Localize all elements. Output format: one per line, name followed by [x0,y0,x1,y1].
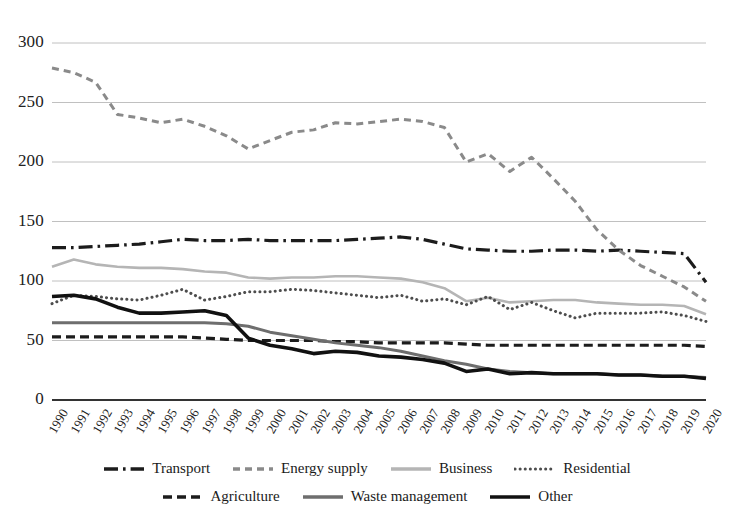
legend-label: Energy supply [281,460,368,477]
legend-row-primary: TransportEnergy supplyBusinessResidentia… [0,460,734,477]
y-tick-100: 100 [0,270,44,290]
series-line-agriculture [52,337,706,347]
legend-item-agriculture[interactable]: Agriculture [162,488,280,505]
legend-item-transport[interactable]: Transport [103,460,210,477]
legend-item-residential[interactable]: Residential [514,460,631,477]
legend-line-swatch [514,463,556,475]
y-tick-200: 200 [0,151,44,171]
legend-line-swatch [232,463,274,475]
y-tick-250: 250 [0,92,44,112]
legend-label: Residential [563,460,631,477]
series-line-waste-management [52,323,706,378]
y-tick-150: 150 [0,211,44,231]
legend-item-other[interactable]: Other [489,488,572,505]
legend-label: Transport [152,460,210,477]
legend-line-swatch [103,463,145,475]
series-line-residential [52,289,706,321]
legend-label: Waste management [351,488,468,505]
emissions-line-chart: 050100150200250300 199019911992199319941… [0,0,734,531]
legend-line-swatch [162,491,204,503]
legend-item-waste-management[interactable]: Waste management [302,488,468,505]
legend-label: Agriculture [211,488,280,505]
legend-line-swatch [302,491,344,503]
legend-item-business[interactable]: Business [390,460,492,477]
legend-label: Other [538,488,572,505]
legend-row-secondary: AgricultureWaste managementOther [0,488,734,505]
y-tick-300: 300 [0,32,44,52]
series-line-energy-supply [52,68,706,301]
y-tick-50: 50 [0,330,44,350]
legend-line-swatch [489,491,531,503]
legend-line-swatch [390,463,432,475]
legend-label: Business [439,460,492,477]
series-line-business [52,260,706,315]
legend-item-energy-supply[interactable]: Energy supply [232,460,368,477]
y-tick-0: 0 [0,389,44,409]
series-line-transport [52,237,706,282]
